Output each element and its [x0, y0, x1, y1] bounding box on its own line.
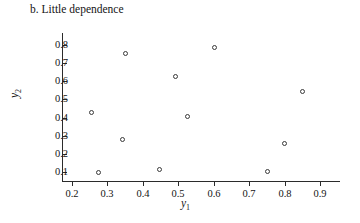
x-tick-mark	[249, 181, 250, 186]
x-tick-label: 0.5	[158, 188, 198, 199]
x-tick-mark	[178, 181, 179, 186]
y-tick-label: 0.1	[28, 166, 68, 177]
data-point-marker	[212, 45, 217, 50]
data-point-marker	[123, 51, 128, 56]
data-point-marker	[96, 170, 101, 175]
y-tick-label: 0.3	[28, 130, 68, 141]
x-tick-label: 0.7	[229, 188, 269, 199]
data-point-marker	[120, 137, 125, 142]
plot-area: 0.10.20.30.40.50.60.70.8 0.20.30.40.50.6…	[0, 0, 360, 223]
x-tick-label: 0.9	[300, 188, 340, 199]
data-point-marker	[89, 110, 94, 115]
x-tick-label: 0.2	[52, 188, 92, 199]
x-axis-spine	[62, 181, 340, 182]
y-tick-label: 0.2	[28, 148, 68, 159]
x-tick-label: 0.6	[194, 188, 234, 199]
x-tick-mark	[107, 181, 108, 186]
data-point-marker	[185, 114, 190, 119]
y-tick-label: 0.8	[28, 39, 68, 50]
x-tick-label: 0.3	[87, 188, 127, 199]
x-tick-label: 0.4	[123, 188, 163, 199]
y-axis-label-subscript: 2	[14, 89, 23, 93]
scatter-plot-figure: b. Little dependence 0.10.20.30.40.50.60…	[0, 0, 360, 223]
data-point-marker	[265, 169, 270, 174]
x-tick-mark	[320, 181, 321, 186]
x-axis-label: y1	[181, 197, 190, 212]
data-point-marker	[173, 74, 178, 79]
data-point-marker	[282, 141, 287, 146]
x-tick-mark	[72, 181, 73, 186]
y-axis-label-base: y	[8, 93, 20, 98]
y-tick-label: 0.4	[28, 112, 68, 123]
x-tick-mark	[285, 181, 286, 186]
y-axis-label: y2	[8, 89, 23, 98]
x-tick-label: 0.8	[265, 188, 305, 199]
y-tick-label: 0.7	[28, 57, 68, 68]
y-tick-label: 0.5	[28, 93, 68, 104]
y-tick-label: 0.6	[28, 75, 68, 86]
x-tick-mark	[214, 181, 215, 186]
x-tick-mark	[143, 181, 144, 186]
x-axis-label-subscript: 1	[186, 203, 190, 212]
data-point-marker	[300, 89, 305, 94]
data-point-marker	[157, 167, 162, 172]
